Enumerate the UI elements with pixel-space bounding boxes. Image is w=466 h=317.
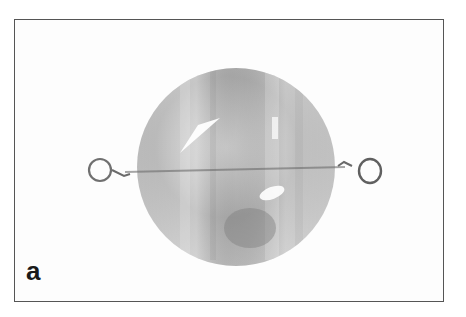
left-loop-icon [89,159,111,181]
right-loop-icon [359,159,381,183]
panel-label: a [26,258,40,284]
bead-illustration [0,0,466,317]
